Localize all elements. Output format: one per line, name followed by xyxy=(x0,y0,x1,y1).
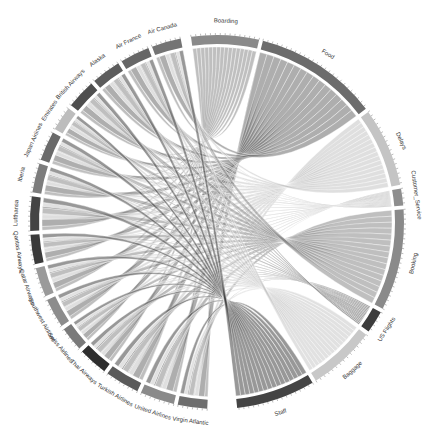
axis-tick xyxy=(117,62,118,64)
axis-tick xyxy=(92,362,93,363)
axis-tick xyxy=(328,372,329,374)
axis-tick xyxy=(329,71,330,73)
axis-tick xyxy=(398,173,400,174)
axis-tick xyxy=(268,40,269,42)
axis-tick xyxy=(42,150,44,151)
axis-tick xyxy=(295,50,296,52)
axis-tick xyxy=(371,115,373,116)
axis-tick xyxy=(272,41,273,43)
axis-tick xyxy=(361,101,363,102)
axis-tick xyxy=(282,45,283,47)
axis-tick xyxy=(103,371,104,373)
axis-tick xyxy=(268,402,269,404)
axis-tick xyxy=(286,46,287,48)
axis-tick xyxy=(65,333,67,334)
axis-tick xyxy=(304,388,305,390)
axis-tick xyxy=(389,295,391,296)
axis-tick xyxy=(374,119,376,120)
chord-diagram: BoardingFoodDelaysCustomer_ServiceBookin… xyxy=(0,0,434,436)
axis-tick xyxy=(48,305,50,306)
axis-tick xyxy=(320,378,321,380)
axis-tick xyxy=(52,313,54,314)
group-label: Staff xyxy=(274,407,288,417)
axis-tick xyxy=(336,366,337,368)
axis-tick xyxy=(395,163,397,164)
axis-tick xyxy=(145,395,146,397)
axis-tick xyxy=(38,283,40,284)
axis-tick xyxy=(151,45,152,47)
axis-tick xyxy=(95,365,96,367)
group-label: Delays xyxy=(395,131,408,150)
axis-tick xyxy=(72,100,74,101)
axis-tick xyxy=(316,381,317,383)
axis-tick xyxy=(132,389,133,391)
axis-tick xyxy=(45,300,47,301)
axis-tick xyxy=(62,329,64,330)
group-arc xyxy=(191,35,259,49)
axis-tick xyxy=(123,384,124,386)
axis-tick xyxy=(143,48,144,50)
axis-tick xyxy=(78,349,79,350)
axis-tick xyxy=(304,55,305,57)
axis-tick xyxy=(137,391,138,393)
axis-tick xyxy=(393,286,395,287)
axis-tick xyxy=(150,397,151,399)
axis-tick xyxy=(388,145,390,146)
axis-tick xyxy=(340,363,341,365)
axis-tick xyxy=(50,309,52,310)
group-label: Virgin Atlantic xyxy=(172,415,209,426)
axis-tick xyxy=(134,52,135,54)
axis-tick xyxy=(56,124,58,125)
axis-tick xyxy=(383,309,385,310)
group-label: Air Canada xyxy=(147,21,178,35)
axis-tick xyxy=(129,55,130,57)
axis-tick xyxy=(393,159,395,160)
axis-tick xyxy=(67,107,69,108)
axis-tick xyxy=(291,48,292,50)
axis-tick xyxy=(138,50,139,52)
axis-tick xyxy=(64,111,66,112)
axis-tick xyxy=(128,387,129,389)
axis-tick xyxy=(41,154,43,155)
axis-tick xyxy=(333,74,334,76)
axis-tick xyxy=(40,287,42,288)
axis-tick xyxy=(115,379,116,381)
axis-tick xyxy=(113,64,114,66)
axis-tick xyxy=(350,353,351,354)
axis-tick xyxy=(376,123,378,124)
group-arc xyxy=(178,396,208,409)
axis-tick xyxy=(343,360,344,361)
axis-tick xyxy=(53,128,55,129)
axis-tick xyxy=(82,89,83,90)
axis-tick xyxy=(397,272,399,273)
axis-tick xyxy=(97,76,98,78)
axis-tick xyxy=(286,396,287,398)
axis-tick xyxy=(317,62,318,64)
axis-tick xyxy=(93,79,94,81)
axis-tick xyxy=(381,132,383,133)
axis-tick xyxy=(147,46,148,48)
axis-tick xyxy=(313,383,314,385)
axis-tick xyxy=(391,291,393,292)
axis-tick xyxy=(79,93,80,94)
axis-tick xyxy=(392,154,394,155)
axis-tick xyxy=(71,341,73,342)
axis-tick xyxy=(325,68,326,70)
axis-tick xyxy=(61,115,63,116)
group-label: Baggage xyxy=(341,359,363,380)
group-label: Japan Airlines xyxy=(23,122,44,159)
group-label: Iberia xyxy=(17,166,27,183)
axis-tick xyxy=(57,322,59,323)
group-label: US Flights xyxy=(376,316,396,343)
axis-tick xyxy=(308,57,309,59)
axis-tick xyxy=(379,127,381,128)
axis-tick xyxy=(44,145,46,146)
group-label: Lufthansa xyxy=(12,199,19,226)
axis-tick xyxy=(154,398,155,400)
axis-tick xyxy=(368,111,370,112)
axis-tick xyxy=(390,150,392,151)
axis-tick xyxy=(291,394,292,396)
group-label: Booking xyxy=(408,252,418,274)
axis-tick xyxy=(336,77,337,79)
axis-tick xyxy=(88,359,89,360)
